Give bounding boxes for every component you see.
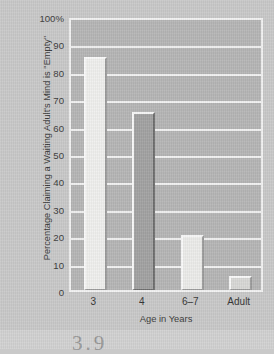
x-axis-tick-labels: 346–7Adult — [69, 296, 263, 312]
x-tick-label: 4 — [139, 296, 145, 307]
y-tick-label: 100% — [30, 13, 64, 24]
bar — [181, 235, 204, 290]
margin-note: 3.9 — [72, 331, 107, 354]
y-tick-label: 10 — [30, 259, 64, 270]
bar-fill — [132, 112, 155, 290]
y-tick-label: 70 — [30, 95, 64, 106]
bar-fill — [229, 276, 252, 290]
y-tick-label: 40 — [30, 177, 64, 188]
bar — [229, 276, 252, 290]
bar-series — [71, 20, 261, 290]
y-tick-label: 0 — [30, 287, 64, 298]
y-tick-label: 60 — [30, 122, 64, 133]
bar — [132, 112, 155, 290]
y-tick-label: 50 — [30, 150, 64, 161]
x-axis-title: Age in Years — [69, 313, 263, 324]
x-tick-label: 3 — [90, 296, 96, 307]
bar-fill — [84, 57, 107, 290]
plot-area — [69, 18, 263, 292]
y-axis-tick-labels: 100%9080706050403020100 — [30, 18, 64, 292]
bar — [84, 57, 107, 290]
x-tick-label: 6–7 — [182, 296, 199, 307]
y-tick-label: 90 — [30, 40, 64, 51]
y-tick-label: 80 — [30, 67, 64, 78]
y-tick-label: 30 — [30, 204, 64, 215]
bar-fill — [181, 235, 204, 290]
x-tick-label: Adult — [227, 296, 250, 307]
page-edge — [0, 330, 274, 349]
y-tick-label: 20 — [30, 232, 64, 243]
